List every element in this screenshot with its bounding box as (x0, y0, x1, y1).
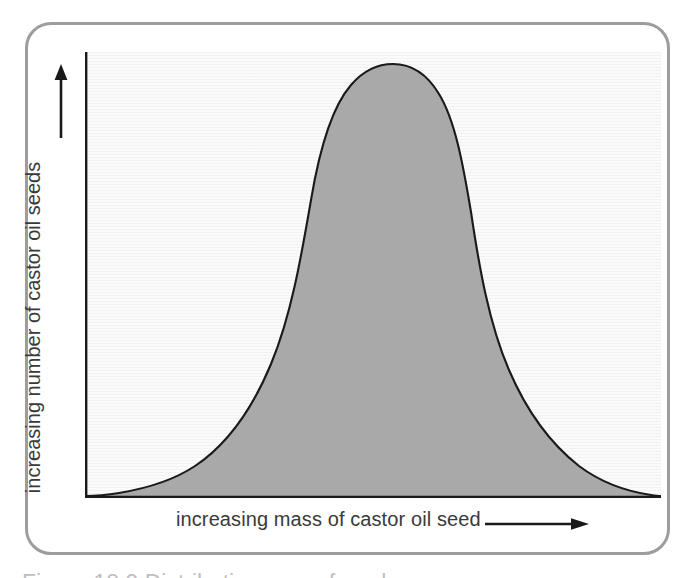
y-axis-label-group: increasing number of castor oil seeds (0, 60, 80, 500)
curve-filled-area (85, 64, 661, 498)
y-axis-label: increasing number of castor oil seeds (22, 154, 45, 502)
figure-caption-partial: Figure 18.9 Distribution curve for a lar… (22, 569, 582, 578)
up-arrow-icon (44, 64, 78, 138)
distribution-curve-chart (85, 52, 661, 498)
right-arrow-icon (485, 517, 589, 531)
figure-root: increasing mass of castor oil seed incre… (0, 0, 693, 578)
x-axis-label: increasing mass of castor oil seed (176, 508, 481, 531)
